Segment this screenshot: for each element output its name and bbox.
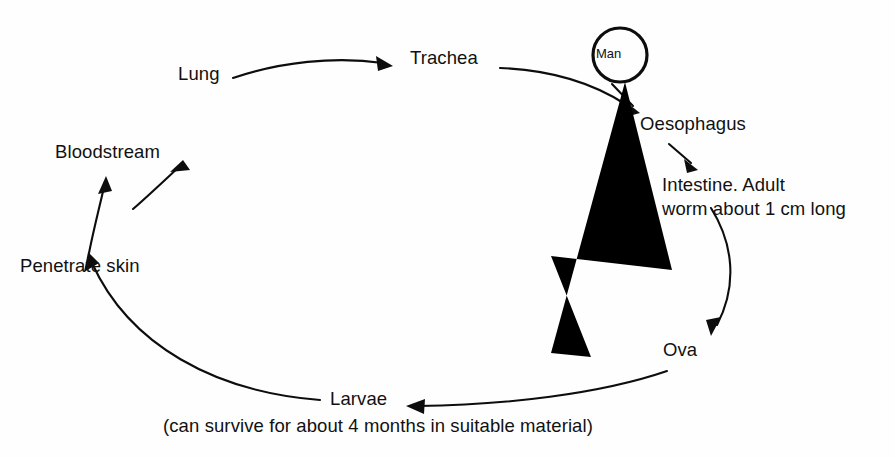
node-label-bloodstream: Bloodstream <box>55 140 160 163</box>
life-cycle-diagram: Lung Trachea Man Oesophagus Intestine. A… <box>0 0 895 458</box>
node-label-intestine-line1: Intestine. Adult <box>662 172 785 197</box>
node-label-lung: Lung <box>178 62 220 85</box>
edge-lung-to-trachea <box>233 56 393 78</box>
node-label-intestine-line2: worm about 1 cm long <box>662 196 846 221</box>
edge-intestine-to-ova <box>706 208 730 336</box>
edge-penetrate-skin-to-bloodstream <box>89 176 112 253</box>
node-label-ova: Ova <box>663 338 697 361</box>
node-label-man: Man <box>596 46 621 61</box>
node-label-penetrate-skin: Penetrate skin <box>20 254 140 277</box>
node-label-oesophagus: Oesophagus <box>640 112 746 135</box>
edge-ova-to-larvae <box>406 371 667 414</box>
edge-trachea-to-man <box>500 68 625 104</box>
node-label-larvae: Larvae <box>330 387 387 410</box>
edge-bloodstream-to-lung <box>133 160 190 209</box>
node-label-trachea: Trachea <box>410 46 478 69</box>
larvae-caption: (can survive for about 4 months in suita… <box>163 415 593 437</box>
edge-oesophagus-to-intestine <box>669 144 698 173</box>
